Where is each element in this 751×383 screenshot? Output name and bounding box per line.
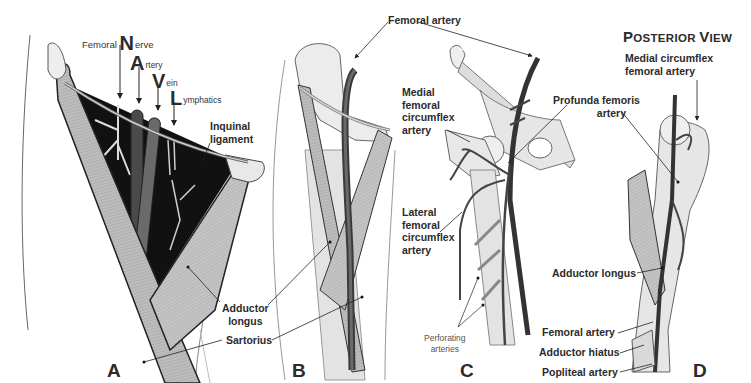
posterior-view-title: POSTERIOR VIEW xyxy=(623,28,732,45)
panel-letter-b: B xyxy=(292,360,306,382)
label-adductor-longus-d: Adductor longus xyxy=(552,267,636,280)
label-perforating-arteries: Perforatingarteries xyxy=(424,333,466,355)
panel-letter-c: C xyxy=(460,360,474,382)
label-sartorius: Sartorius xyxy=(226,334,272,347)
label-popliteal-artery: Popliteal artery xyxy=(542,366,618,379)
label-adductor-hiatus: Adductor hiatus xyxy=(539,346,620,359)
panel-letter-a: A xyxy=(107,360,121,382)
panel-d-drawing xyxy=(618,80,709,372)
panel-b-drawing xyxy=(268,22,395,380)
label-adductor-longus-a: Adductorlongus xyxy=(222,302,269,327)
label-profunda-femoris: Profunda femorisartery xyxy=(553,94,640,119)
label-femoral-artery-d: Femoral artery xyxy=(542,326,615,339)
label-femoral-artery-b: Femoral artery xyxy=(388,14,461,27)
panel-a-drawing xyxy=(22,35,264,383)
label-medial-circumflex-d: Medial circumflexfemoral artery xyxy=(625,52,713,77)
panel-c-drawing xyxy=(418,22,575,345)
label-inguinal-ligament: Inquinalligament xyxy=(210,120,253,145)
panel-letter-d: D xyxy=(693,360,707,382)
mnemonic-lymphatics: Lymphatics xyxy=(170,87,221,110)
label-lateral-femoral-circumflex: Lateralfemoralcircumflexartery xyxy=(402,206,455,256)
label-medial-femoral-circumflex: Medialfemoralcircumflexartery xyxy=(402,86,455,136)
